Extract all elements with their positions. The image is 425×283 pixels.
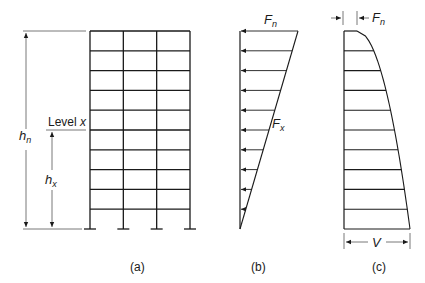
base-shear-label: V bbox=[372, 235, 382, 250]
seismic-force-diagram: hn Level x hx (a) Fn Fx (b) Fn V (c) bbox=[0, 0, 425, 283]
panel-a-building-frame: hn Level x hx (a) bbox=[19, 31, 196, 274]
lateral-force-arrows bbox=[241, 31, 298, 209]
fn-label: Fn bbox=[264, 12, 277, 29]
fn-shear-label: Fn bbox=[372, 10, 385, 27]
caption-b: (b) bbox=[251, 260, 266, 274]
building-frame bbox=[84, 31, 196, 229]
caption-a: (a) bbox=[130, 260, 145, 274]
panel-b-force-distribution: Fn Fx (b) bbox=[240, 12, 298, 274]
story-shear-diagram bbox=[344, 31, 410, 229]
hn-label: hn bbox=[19, 128, 31, 145]
hx-label: hx bbox=[45, 172, 57, 189]
fx-label: Fx bbox=[272, 116, 285, 133]
panel-c-shear-diagram: Fn V (c) bbox=[331, 10, 410, 274]
caption-c: (c) bbox=[372, 260, 386, 274]
level-x-label: Level x bbox=[48, 115, 87, 129]
